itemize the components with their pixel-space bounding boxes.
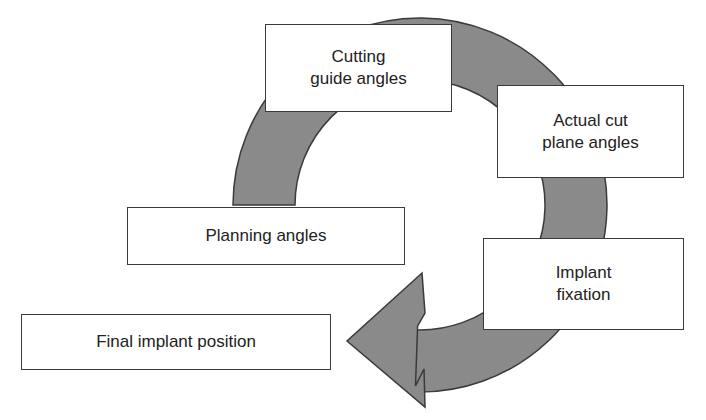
node-final-implant-position: Final implant position	[21, 314, 331, 370]
node-implant-fixation: Implant fixation	[483, 238, 684, 330]
node-actual-cut-plane-angles: Actual cut plane angles	[497, 85, 684, 178]
node-planning-angles: Planning angles	[127, 207, 405, 265]
arrow-head-icon	[347, 273, 425, 407]
node-cutting-guide-angles: Cutting guide angles	[265, 24, 452, 112]
